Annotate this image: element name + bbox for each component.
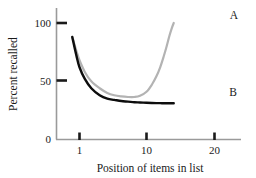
series-b-annotation: B bbox=[229, 86, 237, 98]
chart-canvas: 100 50 0 1 10 20 Percent recalled Positi… bbox=[0, 0, 256, 178]
y-axis-title: Percent recalled bbox=[7, 37, 19, 111]
y-tick-label-100: 100 bbox=[35, 17, 52, 29]
x-tick-label-10: 10 bbox=[141, 144, 153, 156]
x-axis-title: Position of items in list bbox=[97, 162, 205, 174]
series-a-annotation: A bbox=[230, 9, 239, 21]
y-tick-label-50: 50 bbox=[40, 75, 52, 87]
y-tick-label-0: 0 bbox=[46, 133, 52, 145]
chart-figure: 100 50 0 1 10 20 Percent recalled Positi… bbox=[0, 0, 256, 178]
x-tick-label-1: 1 bbox=[77, 144, 83, 156]
x-tick-label-20: 20 bbox=[209, 144, 221, 156]
